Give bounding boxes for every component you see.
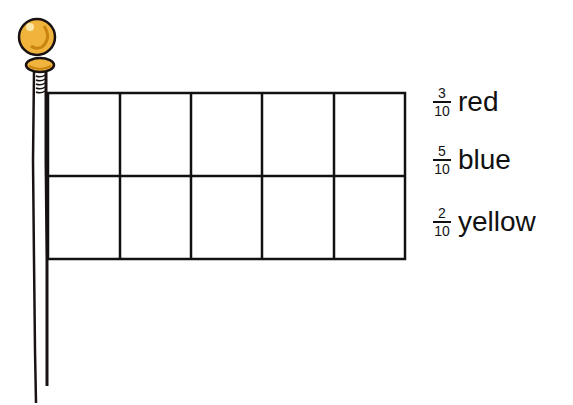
numerator: 3 — [438, 86, 446, 101]
numerator: 2 — [438, 206, 446, 221]
flagpole — [33, 72, 47, 403]
color-label: red — [458, 86, 498, 118]
denominator: 10 — [434, 103, 450, 118]
denominator: 10 — [434, 161, 450, 176]
pole-finial-icon — [19, 19, 55, 72]
numerator: 5 — [438, 144, 446, 159]
flag-grid — [48, 93, 405, 259]
denominator: 10 — [434, 223, 450, 238]
fraction: 5 10 — [432, 144, 452, 176]
fraction: 2 10 — [432, 206, 452, 238]
legend-item-yellow: 2 10 yellow — [432, 206, 536, 238]
flag-illustration — [0, 0, 573, 405]
rope-wrap-icon — [36, 75, 45, 93]
color-label: yellow — [458, 206, 536, 238]
color-label: blue — [458, 144, 511, 176]
legend-item-blue: 5 10 blue — [432, 144, 511, 176]
legend-item-red: 3 10 red — [432, 86, 498, 118]
fraction: 3 10 — [432, 86, 452, 118]
